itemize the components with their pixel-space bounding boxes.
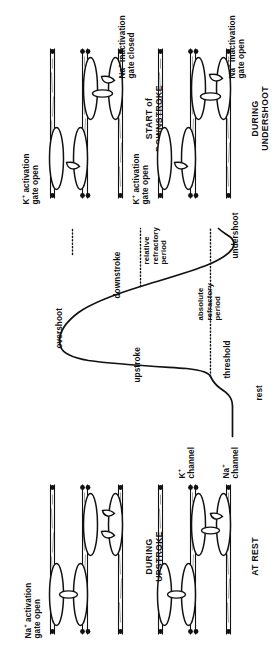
caption-during-upstroke: DURING UPSTROKE <box>144 516 163 596</box>
na-superscript: + <box>219 464 225 468</box>
panel-during-upstroke <box>42 484 128 634</box>
label-na-inactivation-gate-open: Na+ inactivation gate open <box>218 0 246 78</box>
na-channel-activation-open <box>83 493 122 555</box>
label-k-activation-gate-open-downstroke: K+ activation gate open <box>12 118 40 204</box>
figure-frame: K+channel Na+channel AT REST <box>0 0 277 650</box>
annotation-relative-refractory-period: relative refractory period <box>142 204 168 264</box>
k-channel-activation-open <box>157 127 195 189</box>
annotation-undershoot: undershoot <box>230 212 239 258</box>
k-superscript: + <box>19 194 25 198</box>
annotation-downstroke: downstroke <box>112 251 121 298</box>
label-k-activation-gate-open-undershoot: K+ activation gate open <box>122 118 150 204</box>
figure-canvas: K+channel Na+channel AT REST <box>0 0 277 650</box>
k-channel-activation-open <box>49 127 87 189</box>
k-superscript: + <box>175 468 181 472</box>
annotation-absolute-refractory-period: absolute refractory period <box>196 260 222 320</box>
k-channel-closed <box>49 563 87 625</box>
caption-at-rest: AT REST <box>250 516 260 596</box>
na-channel-at-rest <box>191 493 230 555</box>
k-superscript: + <box>129 194 135 198</box>
label-na-inactivation-gate-closed: Na+ inactivation gate closed <box>108 0 136 78</box>
annotation-threshold: threshold <box>222 340 231 378</box>
label-na-activation-gate-open-upstroke: Na+ activation gate open <box>14 552 42 638</box>
annotation-rest: rest <box>254 385 263 400</box>
annotation-overshoot: overshoot <box>54 308 63 348</box>
during-upstroke-membrane-diagram <box>42 484 128 634</box>
caption-during-undershoot: DURING UNDERSHOOT <box>250 76 269 160</box>
annotation-upstroke: upstroke <box>132 347 141 382</box>
